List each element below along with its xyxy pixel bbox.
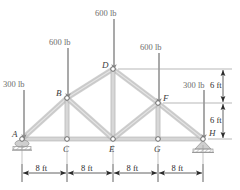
- joint-label-G: G: [154, 145, 161, 154]
- joint-E: [111, 137, 116, 142]
- truss-member: [22, 98, 67, 139]
- joint-A: [20, 137, 25, 142]
- truss-member: [113, 69, 158, 103]
- joint-label-A: A: [12, 130, 18, 139]
- dimension-label-vertical-1: 6 ft: [210, 116, 222, 125]
- truss-members: [22, 69, 203, 139]
- joint-B: [65, 96, 70, 101]
- load-label-B: 600 lb: [49, 38, 71, 47]
- dimension-label-vertical-0: 6 ft: [210, 81, 222, 90]
- load-label-D: 600 lb: [95, 9, 117, 18]
- truss-member: [67, 98, 113, 139]
- joint-F: [156, 101, 161, 106]
- truss-diagram: [0, 0, 240, 190]
- joint-label-D: D: [102, 61, 109, 70]
- joint-label-F: F: [163, 94, 169, 103]
- joint-D: [111, 67, 116, 72]
- dimension-label-horizontal-1: 8 ft: [81, 164, 93, 173]
- dimension-label-horizontal-0: 8 ft: [36, 164, 48, 173]
- load-label-H: 300 lb: [183, 81, 205, 90]
- dimension-label-horizontal-3: 8 ft: [172, 164, 184, 173]
- joint-label-B: B: [56, 89, 62, 98]
- truss-member: [113, 103, 158, 139]
- dimension-label-horizontal-2: 8 ft: [127, 164, 139, 173]
- joint-G: [156, 137, 161, 142]
- joint-H: [201, 137, 206, 142]
- load-label-A: 300 lb: [3, 80, 25, 89]
- joint-C: [65, 137, 70, 142]
- joint-label-H: H: [209, 129, 216, 138]
- joint-label-E: E: [109, 145, 115, 154]
- joint-label-C: C: [63, 145, 69, 154]
- truss-member: [158, 103, 203, 139]
- truss-member: [67, 69, 113, 98]
- load-label-F: 600 lb: [140, 43, 162, 52]
